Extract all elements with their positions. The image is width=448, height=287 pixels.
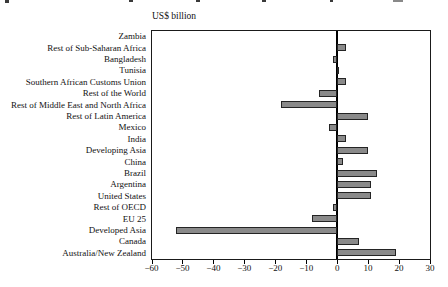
bar [337, 67, 339, 74]
bar [281, 101, 337, 108]
category-label: Rest of the World [0, 88, 146, 99]
bar [337, 113, 368, 120]
x-axis-tick-label: −50 [168, 263, 196, 274]
cropped-text-fragment [330, 0, 333, 2]
category-label: Argentina [0, 179, 146, 190]
bar [329, 124, 337, 131]
bar [337, 170, 377, 177]
cropped-text-fragment [5, 0, 9, 3]
x-axis-tick-label: −20 [261, 263, 289, 274]
axis-unit-title: US$ billion [152, 11, 196, 22]
cropped-text-fragment [196, 0, 200, 2]
bar-chart-figure: US$ billion ZambiaRest of Sub-Saharan Af… [0, 0, 448, 287]
x-axis-tick-label: 0 [323, 263, 351, 274]
cropped-text-fragment [129, 0, 133, 2]
category-label: Developed Asia [0, 225, 146, 236]
bar [333, 204, 338, 211]
category-label: EU 25 [0, 214, 146, 225]
bar [337, 192, 371, 199]
zero-axis-line [336, 31, 338, 259]
category-label: India [0, 134, 146, 145]
bar [319, 90, 338, 97]
category-label: Rest of OECD [0, 202, 146, 213]
cropped-text-fragment [262, 0, 266, 2]
category-label: Bangladesh [0, 54, 146, 65]
category-label: China [0, 157, 146, 168]
category-label: Canada [0, 236, 146, 247]
bar [312, 215, 337, 222]
x-axis-tick-label: −60 [138, 263, 166, 274]
category-label: Australia/New Zealand [0, 248, 146, 259]
category-label: Rest of Middle East and North Africa [0, 100, 146, 111]
plot-area [151, 30, 431, 260]
x-axis-tick-label: 20 [385, 263, 413, 274]
x-axis-tick-label: 10 [354, 263, 382, 274]
x-axis-tick-label: −30 [230, 263, 258, 274]
bar [337, 181, 371, 188]
category-label: Rest of Sub-Saharan Africa [0, 43, 146, 54]
bar [337, 249, 396, 256]
category-label: Tunisia [0, 65, 146, 76]
bar [176, 227, 337, 234]
category-label: Brazil [0, 168, 146, 179]
bar [337, 147, 368, 154]
category-label: Zambia [0, 31, 146, 42]
bar [337, 44, 346, 51]
cropped-text-fragment [393, 0, 403, 2]
bar [337, 238, 359, 245]
bar [333, 56, 338, 63]
x-axis-tick-label: −40 [199, 263, 227, 274]
bar [337, 135, 346, 142]
bar [337, 158, 343, 165]
category-label: United States [0, 191, 146, 202]
bar [337, 78, 346, 85]
x-axis-tick-label: 30 [416, 263, 444, 274]
category-label: Mexico [0, 122, 146, 133]
category-label: Southern African Customs Union [0, 77, 146, 88]
x-axis-tick-label: −10 [292, 263, 320, 274]
category-label: Rest of Latin America [0, 111, 146, 122]
category-label: Developing Asia [0, 145, 146, 156]
